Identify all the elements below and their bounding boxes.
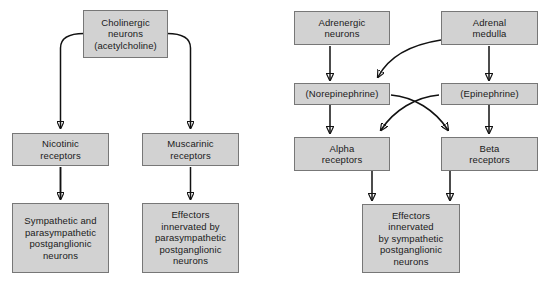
node-effectors-innervated-by-parasympathetic[interactable]: Effectors innervated by parasympathetic … [142, 203, 239, 273]
node-effectors-innervated-by-sympathetic[interactable]: Effectors innervated by sympathetic post… [362, 204, 460, 273]
edge-cholinergic-to-nicotinic [61, 34, 85, 129]
node-epinephrine[interactable]: (Epinephrine) [441, 83, 538, 105]
node-sympathetic-parasympathetic-postganglionic-neurons[interactable]: Sympathetic and parasympathetic postgang… [12, 203, 109, 273]
edge-norepinephrine-to-beta [391, 95, 448, 130]
node-alpha-receptors[interactable]: Alpha receptors [294, 137, 390, 171]
node-adrenergic-neurons[interactable]: Adrenergic neurons [294, 11, 390, 45]
node-beta-receptors[interactable]: Beta receptors [441, 137, 538, 171]
edge-adrenal-medulla-to-norepinephrine [378, 40, 441, 77]
edge-cholinergic-to-muscarinic [167, 34, 191, 129]
node-nicotinic-receptors[interactable]: Nicotinic receptors [12, 133, 109, 166]
node-muscarinic-receptors[interactable]: Muscarinic receptors [142, 133, 239, 166]
node-adrenal-medulla[interactable]: Adrenal medulla [441, 11, 538, 45]
node-cholinergic-neurons[interactable]: Cholinergic neurons (acetylcholine) [83, 10, 168, 58]
node-norepinephrine[interactable]: (Norepinephrine) [294, 83, 390, 105]
diagram-canvas: Cholinergic neurons (acetylcholine) Nico… [0, 0, 544, 288]
